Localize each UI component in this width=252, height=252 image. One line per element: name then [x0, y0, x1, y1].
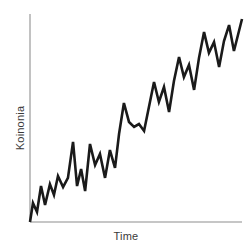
- chart-plot-svg: [0, 0, 252, 252]
- y-axis-label: Koinonia: [14, 68, 26, 188]
- data-series-line: [30, 19, 242, 222]
- chart-container: Koinonia Time: [0, 0, 252, 252]
- x-axis-label: Time: [0, 230, 252, 242]
- y-axis-label-wrap: Koinonia: [0, 0, 34, 252]
